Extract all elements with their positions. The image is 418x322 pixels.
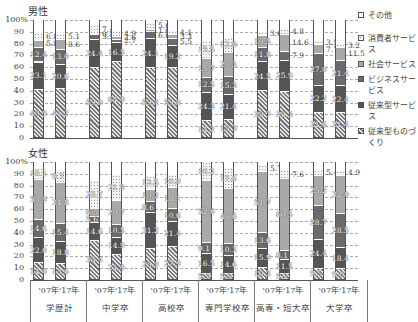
- y-tick-label: 40: [4, 229, 24, 237]
- value-label: 8.1: [276, 252, 288, 260]
- chart-legend: その他 消費者サービス 社会サービス ビジネスサービス 従来型サービス 従来型も…: [358, 10, 418, 152]
- other-segment: [280, 161, 289, 169]
- legend-swatch-traditional-service-icon: [358, 102, 364, 108]
- y-tick-label: 0: [4, 276, 24, 284]
- value-label: 14.9: [108, 242, 125, 250]
- legend-item-traditional-service: 従来型サービス: [358, 100, 418, 122]
- value-label: 14.0: [30, 268, 47, 276]
- x-axis-group: '07年'17年中学卒: [86, 280, 143, 322]
- stacked-bar: [33, 162, 44, 280]
- value-label: 22.0: [30, 247, 47, 255]
- other-segment: [90, 161, 99, 180]
- y-tick-label: 20: [4, 252, 24, 260]
- x-axis-category-label: 専門学校卒: [199, 301, 255, 313]
- value-label: 10.3: [254, 270, 271, 278]
- other-segment: [56, 161, 65, 170]
- value-label: 34.8: [52, 199, 69, 207]
- value-label: 8.6: [142, 204, 154, 212]
- consumer-service-segment: [336, 170, 345, 176]
- x-axis-years-label: '07年'17年: [143, 284, 199, 295]
- value-label: 18.8: [52, 249, 69, 257]
- value-label: 10.1: [30, 170, 47, 178]
- value-label: 21.0: [108, 264, 125, 272]
- value-label: 10.2: [142, 192, 159, 200]
- x-axis-group: '07年'17年高校卒: [142, 280, 199, 322]
- gridline: [30, 174, 358, 175]
- value-label: 4.9: [348, 169, 360, 177]
- other-segment: [314, 161, 323, 169]
- x-axis: '07年'17年学歴計'07年'17年中学卒'07年'17年高校卒'07年'17…: [30, 280, 358, 322]
- value-label: 60.5: [276, 211, 293, 219]
- value-label: 21.9: [108, 184, 125, 192]
- value-label: 51.7: [254, 199, 271, 207]
- value-label: 33.9: [30, 196, 47, 204]
- value-label: 11.5: [276, 263, 293, 271]
- legend-swatch-manufacturing-icon: [358, 128, 364, 134]
- y-tick-label: 90: [4, 170, 24, 178]
- x-axis-group: '07年'17年専門学校卒: [198, 280, 255, 322]
- value-label: 15.4: [52, 229, 69, 237]
- value-label: 28.7: [310, 219, 327, 227]
- value-label: 13.6: [52, 268, 69, 276]
- value-label: 33.4: [86, 256, 103, 264]
- value-label: 46.6: [220, 213, 237, 221]
- gridline: [30, 221, 358, 222]
- y-tick-label: 60: [4, 205, 24, 213]
- value-label: 9.1: [198, 245, 210, 253]
- value-label: 7.6: [292, 171, 304, 179]
- value-label: 20.7: [108, 209, 125, 217]
- value-label: 21.4: [164, 230, 181, 238]
- value-label: 14.6: [220, 261, 237, 269]
- legend-label: その他: [368, 11, 392, 20]
- y-tick-label: 30: [4, 241, 24, 249]
- value-label: 18.1: [164, 195, 181, 203]
- value-label: 24.4: [310, 250, 327, 258]
- female-panel: 女性 0102030405060708090100%14.022.014.633…: [0, 0, 418, 322]
- x-axis-years-label: '07年'17年: [31, 284, 87, 295]
- value-label: 9.0: [332, 271, 344, 279]
- gridline: [30, 233, 358, 234]
- x-axis-category-label: 高校卒: [143, 301, 199, 313]
- gridline: [30, 268, 358, 269]
- other-segment: [224, 161, 233, 167]
- legend-swatch-business-icon: [358, 76, 364, 82]
- value-label: 31.2: [142, 227, 159, 235]
- value-label: 10.9: [164, 178, 181, 186]
- female-panel-title: 女性: [28, 145, 48, 160]
- gridline: [30, 209, 358, 210]
- gridline: [30, 186, 358, 187]
- legend-label: 社会サービス: [368, 60, 416, 69]
- x-axis-years-label: '07年'17年: [199, 284, 255, 295]
- x-axis-category-label: 大学卒: [311, 301, 367, 313]
- value-label: 13.6: [254, 237, 271, 245]
- legend-label: 消費者サービス: [368, 34, 416, 54]
- other-segment: [112, 161, 121, 174]
- legend-swatch-other-icon: [358, 12, 364, 18]
- x-axis-category-label: 中学卒: [87, 301, 143, 313]
- other-segment: [168, 161, 177, 174]
- x-axis-years-label: '07年'17年: [87, 284, 143, 295]
- value-label: 12.5: [142, 179, 159, 187]
- value-label: 6.5: [86, 209, 98, 217]
- legend-label: 従来型サービス: [368, 101, 416, 121]
- other-segment: [258, 161, 267, 164]
- value-label: 25.2: [310, 187, 327, 195]
- value-label: 14.6: [86, 228, 103, 236]
- legend-item-consumer-service: 消費者サービス: [358, 33, 418, 55]
- y-tick-label: 100%: [2, 158, 28, 166]
- consumer-service-segment: [314, 169, 323, 175]
- x-axis-years-label: '07年'17年: [255, 284, 311, 295]
- gridline: [30, 162, 358, 163]
- gridline: [30, 256, 358, 257]
- legend-item-business-service: ビジネスサービス: [358, 74, 418, 96]
- legend-label: ビジネスサービス: [368, 75, 416, 95]
- gridline: [30, 197, 358, 198]
- value-label: 27.9: [164, 260, 181, 268]
- value-label: 9.5: [310, 270, 322, 278]
- legend-swatch-consumer-icon: [358, 35, 364, 41]
- y-tick-label: 70: [4, 193, 24, 201]
- legend-item-other: その他: [358, 10, 418, 21]
- value-label: 15.9: [254, 254, 271, 262]
- value-label: 28.5: [332, 227, 349, 235]
- x-axis-years-label: '07年'17年: [311, 284, 367, 295]
